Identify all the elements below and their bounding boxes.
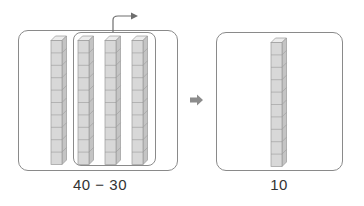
result-ten-rod <box>271 38 287 167</box>
take-away-arrow-icon <box>113 13 138 33</box>
left-expression-label: 40 − 30 <box>48 176 152 193</box>
ten-rod-1 <box>51 36 67 165</box>
result-arrow-icon <box>190 95 203 106</box>
ten-rod-2 <box>78 36 94 165</box>
right-result-label: 10 <box>259 176 299 193</box>
ten-rod-4 <box>132 36 148 165</box>
ten-rod-3 <box>105 36 121 165</box>
